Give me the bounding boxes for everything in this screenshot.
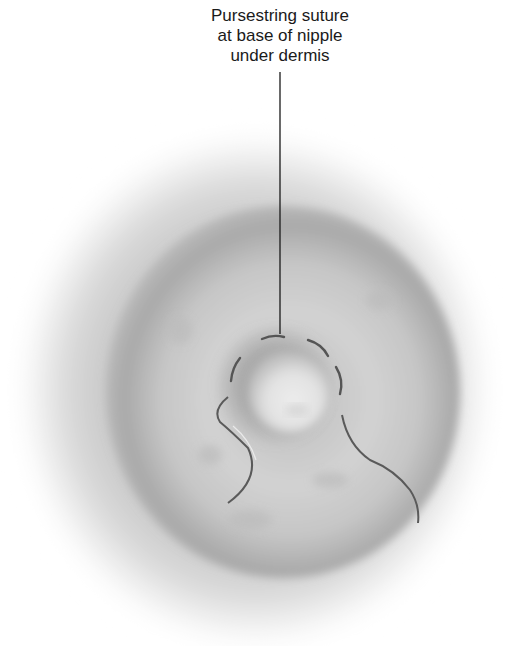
annotation-label: Pursestring suture at base of nipple und… xyxy=(180,6,380,66)
nipple-illustration xyxy=(0,0,507,646)
nipple xyxy=(248,351,330,433)
label-line-2: at base of nipple xyxy=(180,26,380,46)
label-line-3: under dermis xyxy=(180,46,380,66)
label-line-1: Pursestring suture xyxy=(180,6,380,26)
nipple-center xyxy=(285,404,309,416)
